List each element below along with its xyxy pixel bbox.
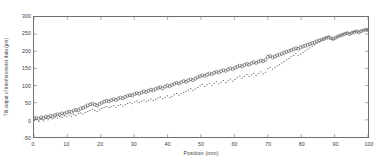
data-point — [281, 63, 282, 64]
y-tick-label: 100 — [22, 83, 31, 89]
data-point — [71, 116, 72, 117]
data-point — [263, 74, 264, 75]
data-point — [312, 46, 313, 47]
data-point — [220, 82, 221, 83]
data-point — [363, 30, 364, 31]
data-point — [230, 79, 231, 80]
data-point — [192, 90, 193, 91]
data-point — [87, 111, 88, 112]
data-point — [307, 49, 308, 50]
data-point — [234, 79, 235, 80]
data-point — [260, 72, 261, 73]
data-point — [164, 97, 165, 98]
data-point — [122, 106, 123, 107]
data-point — [256, 75, 257, 76]
data-point — [267, 68, 268, 69]
data-point — [129, 102, 130, 103]
data-point — [277, 66, 278, 67]
series-circle-markers — [34, 28, 368, 120]
data-point — [106, 106, 107, 107]
data-point — [90, 110, 91, 111]
data-point — [61, 117, 62, 118]
data-point — [136, 101, 137, 102]
data-point — [349, 33, 350, 34]
data-point — [323, 39, 324, 40]
data-point — [141, 101, 142, 102]
data-point — [94, 110, 95, 111]
data-point — [148, 100, 149, 101]
data-point — [45, 118, 46, 119]
data-point — [66, 116, 67, 117]
data-point — [190, 88, 191, 89]
data-point — [139, 102, 140, 103]
data-point — [330, 38, 331, 39]
data-point — [264, 58, 267, 61]
data-point — [97, 111, 98, 112]
data-point — [115, 107, 116, 108]
data-point — [232, 81, 233, 82]
data-point — [188, 90, 189, 91]
data-point — [80, 113, 81, 114]
y-tick-label: 50 — [25, 100, 31, 106]
data-point — [246, 74, 247, 75]
data-point — [111, 106, 112, 107]
data-point — [204, 86, 205, 87]
x-tick-label: 20 — [97, 141, 103, 147]
data-point — [340, 35, 341, 36]
data-point — [43, 121, 44, 122]
data-point — [206, 85, 207, 86]
data-point — [36, 119, 37, 120]
data-point — [85, 112, 86, 113]
data-point — [169, 97, 170, 98]
data-point — [197, 87, 198, 88]
plot-area — [34, 17, 368, 137]
data-point — [218, 84, 219, 85]
data-point — [344, 33, 345, 34]
data-point — [68, 115, 69, 116]
data-point — [47, 120, 48, 121]
data-point — [223, 80, 224, 81]
data-point — [270, 67, 271, 68]
plot-frame — [33, 16, 369, 138]
data-point — [178, 95, 179, 96]
data-point — [321, 40, 322, 41]
data-point — [38, 121, 39, 122]
data-point — [356, 31, 357, 32]
data-point — [293, 55, 294, 56]
data-point — [127, 103, 128, 104]
data-point — [237, 77, 238, 78]
data-point — [225, 82, 226, 83]
data-point — [298, 55, 299, 56]
data-point — [354, 31, 355, 32]
data-point — [174, 94, 175, 95]
data-point — [78, 113, 79, 114]
data-point — [251, 75, 252, 76]
x-tick-label: 80 — [299, 141, 305, 147]
x-tick-label: 60 — [232, 141, 238, 147]
data-point — [157, 98, 158, 99]
data-point — [216, 81, 217, 82]
data-point — [59, 116, 60, 117]
data-point — [181, 93, 182, 94]
data-point — [227, 80, 228, 81]
data-point — [99, 110, 100, 111]
data-point — [125, 104, 126, 105]
data-point — [316, 43, 317, 44]
data-point — [162, 98, 163, 99]
data-point — [40, 119, 41, 120]
x-tick-label: 40 — [164, 141, 170, 147]
data-point — [167, 96, 168, 97]
data-point — [288, 58, 289, 59]
data-point — [211, 85, 212, 86]
x-tick-label: 50 — [198, 141, 204, 147]
data-point — [153, 100, 154, 101]
data-point — [361, 30, 362, 31]
data-point — [150, 99, 151, 100]
x-tick-label: 100 — [365, 141, 374, 147]
x-tick-label: 0 — [32, 141, 35, 147]
data-point — [295, 53, 296, 54]
data-point — [132, 103, 133, 104]
data-point — [108, 108, 109, 109]
data-point — [52, 118, 53, 119]
data-point — [118, 105, 119, 106]
